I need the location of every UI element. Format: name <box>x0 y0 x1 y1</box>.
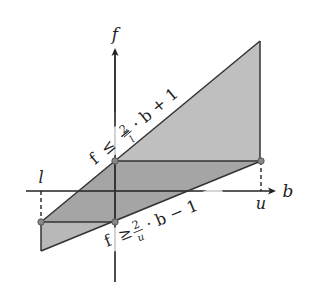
point-mid-top <box>112 158 118 164</box>
relaxation-diagram: f b l u f ≤ − 2 l · b + 1 f ≥ 2 u · b − … <box>0 0 312 300</box>
b-axis-label: b <box>283 181 294 201</box>
point-right <box>258 158 264 164</box>
point-left <box>38 219 44 225</box>
u-tick-label: u <box>256 194 266 213</box>
l-tick-label: l <box>38 168 43 187</box>
point-mid-bottom <box>112 219 118 225</box>
f-axis-label: f <box>110 24 121 44</box>
